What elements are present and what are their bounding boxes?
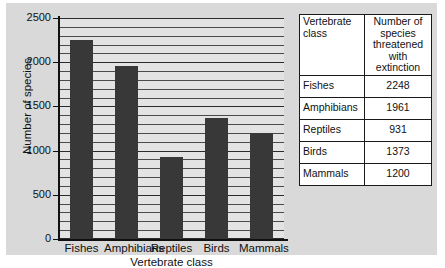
table-cell-class: Amphibians [300, 97, 365, 119]
table-header-class: Vertebrate class [300, 15, 365, 75]
gridline [59, 27, 284, 28]
y-tick-mark [53, 195, 59, 196]
table-cell-count: 1961 [365, 97, 432, 119]
table-header-count: Number of species threatened with extinc… [365, 15, 432, 75]
table-body: Vertebrate classNumber of species threat… [300, 15, 431, 185]
bar-fishes [70, 40, 93, 239]
x-tick-label-reptiles: Reptiles [149, 242, 194, 255]
y-tick-mark [53, 62, 59, 63]
table-row: Mammals1200 [300, 163, 431, 185]
table-cell-count: 2248 [365, 75, 432, 97]
x-tick-label-mammals: Mammals [239, 242, 284, 255]
gridline [59, 36, 284, 37]
data-table-container: Vertebrate classNumber of species threat… [299, 14, 432, 186]
table-header-row: Vertebrate classNumber of species threat… [300, 15, 431, 75]
x-axis-line [58, 239, 288, 241]
bar-chart: 05001000150020002500 Number of species F… [12, 8, 292, 252]
gridline [59, 18, 284, 19]
y-tick-label: 0 [45, 233, 51, 244]
x-tick-label-amphibians: Amphibians [104, 242, 149, 255]
y-tick-mark [53, 18, 59, 19]
x-tick-label-birds: Birds [194, 242, 239, 255]
table-cell-count: 931 [365, 119, 432, 141]
table-cell-class: Reptiles [300, 119, 365, 141]
bar-birds [205, 118, 228, 239]
x-axis-title: Vertebrate class [59, 256, 284, 268]
bar-reptiles [160, 157, 183, 239]
table-row: Birds1373 [300, 141, 431, 163]
data-table: Vertebrate classNumber of species threat… [300, 15, 431, 185]
table-cell-class: Fishes [300, 75, 365, 97]
y-axis-title: Number of species [21, 41, 33, 171]
table-cell-count: 1373 [365, 141, 432, 163]
x-tick-label-fishes: Fishes [59, 242, 104, 255]
x-axis-tick-labels: FishesAmphibiansReptilesBirdsMammals [59, 242, 284, 256]
table-cell-class: Birds [300, 141, 365, 163]
y-tick-mark [53, 151, 59, 152]
y-tick-mark [53, 239, 59, 240]
y-tick-mark [53, 106, 59, 107]
table-row: Amphibians1961 [300, 97, 431, 119]
bar-mammals [250, 133, 273, 239]
table-row: Fishes2248 [300, 75, 431, 97]
y-tick-label: 2500 [27, 12, 51, 23]
table-cell-count: 1200 [365, 163, 432, 185]
bar-amphibians [115, 66, 138, 239]
table-row: Reptiles931 [300, 119, 431, 141]
plot-area [59, 18, 284, 239]
table-cell-class: Mammals [300, 163, 365, 185]
y-tick-label: 500 [33, 189, 51, 200]
y-axis-line [58, 16, 60, 241]
